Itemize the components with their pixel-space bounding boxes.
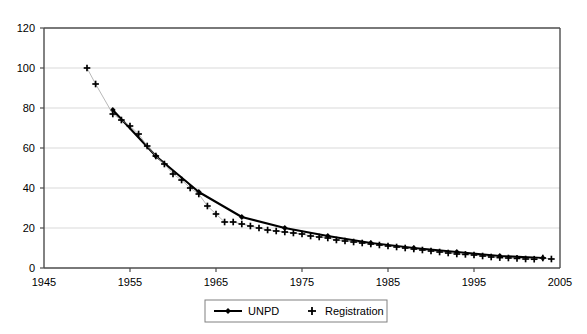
- y-tick-label: 80: [23, 102, 35, 114]
- y-tick-label: 0: [29, 262, 35, 274]
- x-tick-label: 1985: [376, 276, 400, 288]
- chart-container: 020406080100120 194519551965197519851995…: [0, 0, 587, 334]
- y-tick-label: 60: [23, 142, 35, 154]
- legend-label-registration: Registration: [325, 305, 384, 317]
- legend-label-unpd: UNPD: [248, 305, 279, 317]
- x-tick-label: 1965: [204, 276, 228, 288]
- y-tick-label: 40: [23, 182, 35, 194]
- chart-svg: 020406080100120 194519551965197519851995…: [0, 0, 587, 334]
- chart-legend: UNPDRegistration: [205, 300, 387, 322]
- x-tick-label: 2005: [548, 276, 572, 288]
- x-tick-label: 1955: [118, 276, 142, 288]
- x-tick-label: 1945: [32, 276, 56, 288]
- y-tick-label: 20: [23, 222, 35, 234]
- y-tick-label: 120: [17, 22, 35, 34]
- x-tick-label: 1995: [462, 276, 486, 288]
- x-tick-label: 1975: [290, 276, 314, 288]
- y-tick-label: 100: [17, 62, 35, 74]
